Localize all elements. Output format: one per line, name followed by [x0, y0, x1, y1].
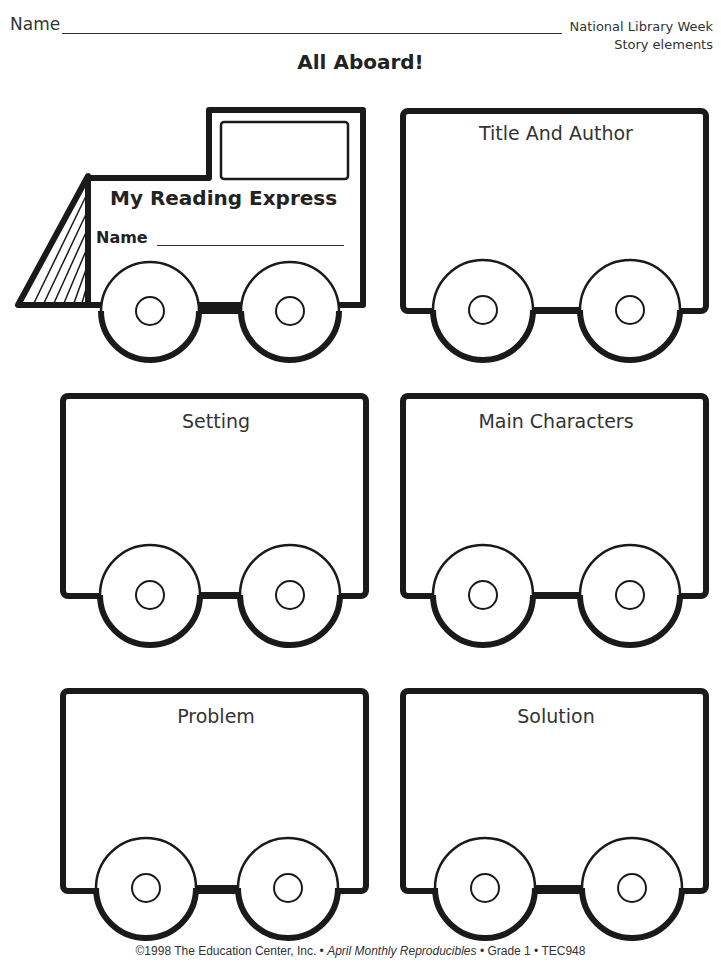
cowcatcher-stripes-icon: [34, 192, 88, 303]
car-label-title-author: Title And Author: [403, 122, 709, 144]
car-label-main-characters: Main Characters: [403, 410, 709, 432]
engine-name-label: Name: [96, 228, 148, 247]
car-label-setting: Setting: [63, 410, 369, 432]
cowcatcher-shape: [18, 176, 90, 305]
footer-copyright: ©1998 The Education Center, Inc. •: [136, 944, 324, 958]
engine-title: My Reading Express: [110, 186, 337, 210]
engine-name-input-line[interactable]: [157, 245, 344, 246]
footer-grade: • Grade 1 • TEC948: [480, 944, 586, 958]
footer-publication: April Monthly Reproducibles: [327, 944, 476, 958]
car-label-problem: Problem: [63, 705, 369, 727]
car-label-solution: Solution: [403, 705, 709, 727]
engine-window-box: [221, 122, 348, 179]
footer-credits: ©1998 The Education Center, Inc. • April…: [0, 944, 721, 958]
train-car-title-author: [398, 106, 714, 368]
